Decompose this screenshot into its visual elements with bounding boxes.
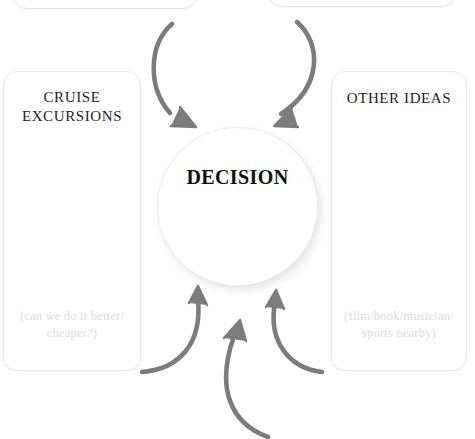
decision-circle[interactable]: DECISION bbox=[157, 127, 318, 286]
card-other-ideas-title: OTHER IDEAS bbox=[332, 89, 466, 108]
card-other-ideas-hint: (film/book/musician/ sports nearby) bbox=[332, 308, 466, 342]
arrow-bottom-right-icon bbox=[274, 303, 322, 372]
decision-diagram-canvas: CRUISE EXCURSIONS (can we do it better/ … bbox=[0, 0, 475, 439]
arrow-top-right-head-icon bbox=[274, 108, 298, 127]
card-top-right[interactable] bbox=[268, 0, 456, 7]
arrow-top-left-icon bbox=[154, 24, 172, 113]
arrow-top-right-icon bbox=[281, 22, 314, 114]
arrow-bottom-right-head-icon bbox=[266, 290, 284, 309]
card-cruise-excursions-title: CRUISE EXCURSIONS bbox=[4, 88, 140, 126]
card-cruise-excursions-hint: (can we do it better/ cheaper?) bbox=[4, 308, 140, 342]
decision-label: DECISION bbox=[158, 166, 317, 189]
card-other-ideas[interactable]: OTHER IDEAS (film/book/musician/ sports … bbox=[331, 71, 467, 371]
arrow-top-left-head-icon bbox=[171, 107, 196, 127]
arrow-bottom-mid-head-icon bbox=[224, 320, 246, 341]
arrow-bottom-mid-icon bbox=[226, 336, 268, 437]
card-cruise-excursions[interactable]: CRUISE EXCURSIONS (can we do it better/ … bbox=[3, 71, 141, 371]
arrow-bottom-left-head-icon bbox=[189, 286, 207, 305]
card-top-left[interactable] bbox=[13, 0, 197, 9]
arrow-bottom-left-icon bbox=[142, 300, 198, 372]
